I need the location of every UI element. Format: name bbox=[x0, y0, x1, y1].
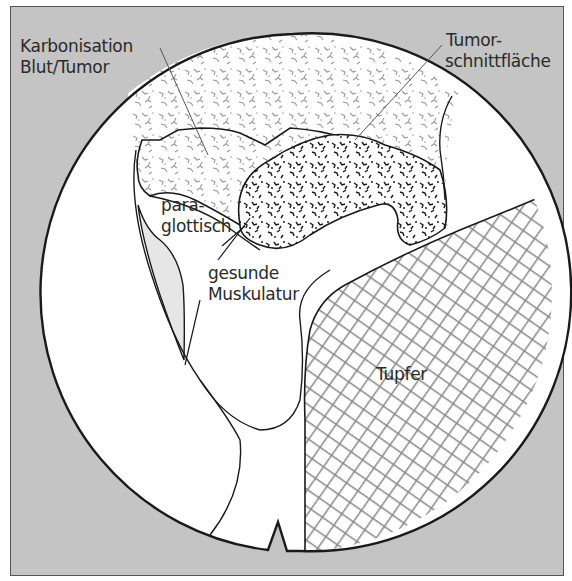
label-tumor-line1: Tumor- bbox=[446, 30, 551, 51]
label-tumor-line2: schnittfläche bbox=[445, 51, 551, 72]
label-karbonisation-line1: Karbonisation bbox=[20, 36, 133, 57]
label-karbonisation: Karbonisation Blut/Tumor bbox=[20, 36, 133, 78]
label-para-line1: para- bbox=[161, 195, 231, 216]
label-para-line2: glottisch bbox=[161, 216, 231, 237]
label-gesunde-muskulatur: gesunde Muskulatur bbox=[208, 263, 299, 305]
label-tumorschnittflaeche: Tumor- schnittfläche bbox=[446, 30, 551, 72]
label-muskulatur-line2: Muskulatur bbox=[208, 284, 299, 305]
label-paraglottisch: para- glottisch bbox=[161, 195, 231, 237]
label-karbonisation-line2: Blut/Tumor bbox=[20, 57, 133, 78]
label-tupfer-text: Tupfer bbox=[376, 364, 427, 385]
label-tupfer: Tupfer bbox=[376, 364, 427, 385]
label-muskulatur-line1: gesunde bbox=[208, 263, 299, 284]
